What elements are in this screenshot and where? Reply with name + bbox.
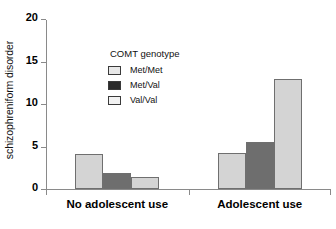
legend-item: Met/Val xyxy=(108,80,218,90)
legend-swatch-icon xyxy=(108,66,121,75)
y-axis-label: schizophreniform disorder xyxy=(1,5,17,195)
bar xyxy=(75,154,103,189)
legend-item-label: Met/Val xyxy=(130,80,160,90)
bar xyxy=(103,173,131,189)
y-tick-label: 10 xyxy=(26,96,38,108)
legend-items: Met/MetMet/ValVal/Val xyxy=(108,65,218,105)
legend-item: Val/Val xyxy=(108,95,218,105)
x-tick-mark xyxy=(46,190,47,195)
x-tick-mark xyxy=(189,190,190,195)
bar xyxy=(218,153,246,189)
bar xyxy=(274,79,302,189)
legend-item-label: Val/Val xyxy=(130,95,157,105)
legend-swatch-icon xyxy=(108,96,121,105)
legend-item-label: Met/Met xyxy=(130,65,163,75)
chart-figure: schizophreniform disorder 05101520 COMT … xyxy=(0,0,336,229)
bar xyxy=(131,177,159,189)
chart-legend: COMT genotype Met/MetMet/ValVal/Val xyxy=(108,48,218,110)
legend-swatch-icon xyxy=(108,81,121,90)
x-axis-label-1: No adolescent use xyxy=(46,198,189,210)
plot-area: 05101520 COMT genotype Met/MetMet/ValVal… xyxy=(46,20,331,190)
x-axis-label-2: Adolescent use xyxy=(189,198,332,210)
legend-title: COMT genotype xyxy=(110,48,218,59)
bar xyxy=(246,142,274,189)
y-tick-label: 0 xyxy=(32,181,38,193)
x-tick-mark xyxy=(330,190,331,195)
legend-item: Met/Met xyxy=(108,65,218,75)
y-tick-label: 5 xyxy=(32,139,38,151)
y-tick-label: 15 xyxy=(26,54,38,66)
y-tick-label: 20 xyxy=(26,11,38,23)
